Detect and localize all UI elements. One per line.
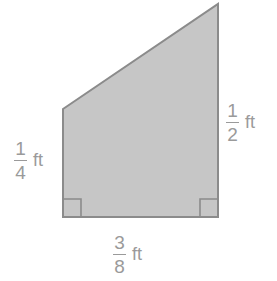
bottom-side-dimension-label: 3 8 ft — [113, 233, 142, 276]
bottom-fraction-bar — [113, 254, 126, 256]
right-side-dimension-label: 1 2 ft — [226, 101, 255, 144]
bottom-fraction: 3 8 — [113, 233, 126, 276]
left-fraction: 1 4 — [14, 139, 27, 182]
trapezoid-shape — [63, 4, 218, 217]
left-fraction-bar — [14, 160, 27, 162]
right-fraction: 1 2 — [226, 101, 239, 144]
bottom-denominator: 8 — [113, 257, 126, 276]
left-numerator: 1 — [14, 139, 27, 158]
bottom-numerator: 3 — [113, 233, 126, 252]
left-side-dimension-label: 1 4 ft — [14, 139, 43, 182]
right-fraction-bar — [226, 122, 239, 124]
figure-canvas: 1 4 ft 1 2 ft 3 8 ft — [0, 0, 277, 281]
right-denominator: 2 — [226, 125, 239, 144]
right-numerator: 1 — [226, 101, 239, 120]
right-unit: ft — [245, 113, 255, 131]
left-denominator: 4 — [14, 163, 27, 182]
left-unit: ft — [33, 151, 43, 169]
bottom-unit: ft — [132, 245, 142, 263]
